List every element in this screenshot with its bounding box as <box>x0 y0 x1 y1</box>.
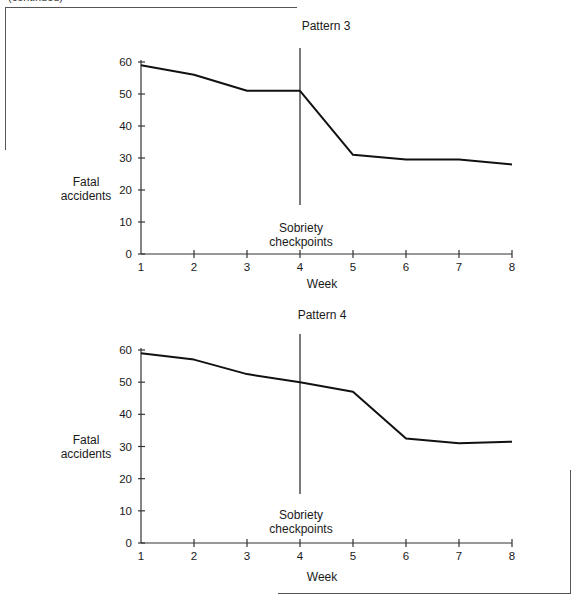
x-tick-label: 4 <box>297 550 304 562</box>
y-tick-label: 30 <box>119 441 132 453</box>
y-tick-label: 20 <box>119 473 132 485</box>
y-tick-label: 50 <box>119 376 132 388</box>
x-tick-label: 8 <box>509 550 515 562</box>
x-tick-label: 6 <box>403 550 409 562</box>
x-tick-label: 5 <box>350 550 356 562</box>
figure-page: (continued) Pattern 3 Fatal accidents So… <box>0 0 577 601</box>
x-tick-label: 1 <box>138 550 144 562</box>
y-tick-label: 10 <box>119 505 132 517</box>
x-tick-label: 3 <box>244 550 250 562</box>
data-series-line <box>141 353 512 443</box>
y-tick-label: 40 <box>119 408 132 420</box>
x-tick-label: 7 <box>456 550 462 562</box>
y-tick-label: 0 <box>126 537 132 549</box>
x-tick-label: 2 <box>191 550 197 562</box>
y-tick-label: 60 <box>119 344 132 356</box>
chart-plot: 010203040506012345678 <box>0 0 577 601</box>
